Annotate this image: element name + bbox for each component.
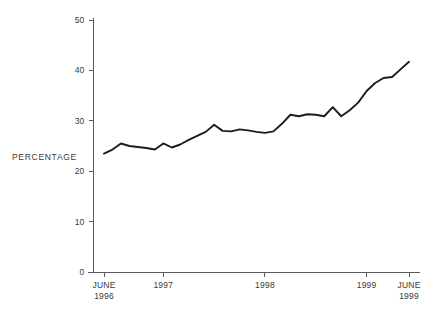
- line-chart-plot: 01020304050 JUNE1996199719981999JUNE1999…: [0, 0, 435, 323]
- y-axis-title: PERCENTAGE: [12, 152, 77, 162]
- y-axis-ticks: [89, 20, 94, 272]
- y-tick-label: 20: [75, 166, 85, 176]
- x-tick-label-secondary: 1999: [399, 291, 419, 301]
- x-tick-label: 1997: [153, 280, 173, 290]
- x-tick-label: JUNE: [93, 280, 116, 290]
- chart-figure: 01020304050 JUNE1996199719981999JUNE1999…: [0, 0, 435, 323]
- y-tick-label: 30: [75, 116, 85, 126]
- x-tick-label-secondary: 1996: [94, 291, 114, 301]
- x-axis-tick-labels: JUNE1996199719981999JUNE1999: [93, 280, 421, 301]
- x-tick-label: JUNE: [398, 280, 421, 290]
- x-tick-label: 1998: [255, 280, 275, 290]
- y-tick-label: 10: [75, 217, 85, 227]
- y-axis-tick-labels: 01020304050: [75, 15, 85, 277]
- y-tick-label: 40: [75, 65, 85, 75]
- data-series-line: [104, 62, 409, 154]
- x-tick-label: 1999: [357, 280, 377, 290]
- y-tick-label: 50: [75, 15, 85, 25]
- y-tick-label: 0: [80, 267, 85, 277]
